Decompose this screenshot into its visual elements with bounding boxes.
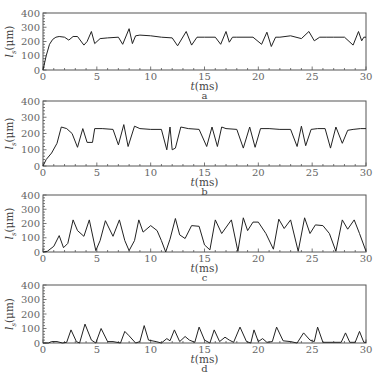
x-tick-label: 30 xyxy=(360,253,373,264)
x-tick-label: 5 xyxy=(94,253,100,264)
y-tick-label: 100 xyxy=(21,232,40,243)
y-axis-title: ls(μm) xyxy=(3,26,18,58)
y-tick-label: 0 xyxy=(34,65,40,76)
panel-a: 0510152025300100200300400ls(μm)t(ms)a xyxy=(3,8,372,102)
x-tick-label: 10 xyxy=(144,71,157,82)
x-tick-label: 5 xyxy=(94,344,100,355)
x-tick-label: 0 xyxy=(40,167,46,178)
y-tick-label: 300 xyxy=(21,294,40,305)
x-tick-label: 25 xyxy=(306,71,319,82)
y-tick-label: 300 xyxy=(21,22,40,33)
y-tick-label: 400 xyxy=(21,96,40,107)
x-tick-label: 5 xyxy=(94,167,100,178)
y-tick-label: 100 xyxy=(21,323,40,334)
x-tick-label: 10 xyxy=(144,253,157,264)
x-tick-label: 0 xyxy=(40,253,46,264)
y-tick-label: 0 xyxy=(34,338,40,349)
x-tick-label: 10 xyxy=(144,344,157,355)
x-tick-label: 0 xyxy=(40,344,46,355)
y-tick-label: 0 xyxy=(34,161,40,172)
x-tick-label: 30 xyxy=(360,167,373,178)
x-tick-label: 25 xyxy=(306,253,319,264)
x-tick-label: 25 xyxy=(306,344,319,355)
y-tick-label: 400 xyxy=(21,280,40,291)
y-tick-label: 200 xyxy=(21,36,40,47)
plot-frame xyxy=(43,13,366,70)
y-tick-label: 100 xyxy=(21,144,40,155)
series-line xyxy=(43,125,366,166)
panel-b: 0510152025300100200300400ls(μm)t(ms)b xyxy=(3,96,372,198)
y-tick-label: 400 xyxy=(21,8,40,19)
x-tick-label: 20 xyxy=(252,253,265,264)
y-tick-label: 100 xyxy=(21,50,40,61)
panel-label: c xyxy=(202,272,208,283)
panel-label: a xyxy=(202,90,208,101)
x-tick-label: 30 xyxy=(360,71,373,82)
x-tick-label: 0 xyxy=(40,71,46,82)
panel-label: d xyxy=(201,363,208,374)
y-axis-title: ls(μm) xyxy=(3,208,18,240)
series-line xyxy=(43,29,366,70)
x-tick-label: 30 xyxy=(360,344,373,355)
x-tick-label: 20 xyxy=(252,344,265,355)
x-tick-label: 25 xyxy=(306,167,319,178)
plot-frame xyxy=(43,101,366,166)
y-tick-label: 200 xyxy=(21,128,40,139)
y-axis-title: ls(μm) xyxy=(3,118,18,150)
series-line xyxy=(43,324,366,343)
panel-d: 0510152025300100200300400ls(μm)t(ms)d xyxy=(3,280,372,375)
series-line xyxy=(43,218,366,252)
y-tick-label: 0 xyxy=(34,247,40,258)
x-tick-label: 20 xyxy=(252,167,265,178)
y-tick-label: 300 xyxy=(21,204,40,215)
y-tick-label: 200 xyxy=(21,218,40,229)
figure: 0510152025300100200300400ls(μm)t(ms)a051… xyxy=(0,0,378,385)
y-tick-label: 300 xyxy=(21,112,40,123)
x-tick-label: 5 xyxy=(94,71,100,82)
x-tick-label: 10 xyxy=(144,167,157,178)
x-tick-label: 20 xyxy=(252,71,265,82)
y-axis-title: ls(μm) xyxy=(3,298,18,330)
y-tick-label: 400 xyxy=(21,190,40,201)
plot-frame xyxy=(43,285,366,343)
y-tick-label: 200 xyxy=(21,309,40,320)
panel-c: 0510152025300100200300400ls(μm)t(ms)c xyxy=(3,190,372,284)
